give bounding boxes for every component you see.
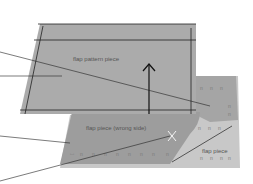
flap-diagram: ꟷnnn nnnn n nnnn nnn nn nnn flap pattern…	[0, 0, 253, 184]
svg-text:n: n	[228, 155, 231, 161]
svg-text:ꟷ: ꟷ	[70, 151, 74, 157]
svg-text:n: n	[210, 85, 213, 91]
leader-line-3	[0, 136, 70, 143]
svg-text:n: n	[80, 151, 83, 157]
svg-text:n: n	[140, 151, 143, 157]
label-flap-piece-wrong-side: flap piece (wrong side)	[86, 125, 146, 131]
flap-piece-back	[196, 76, 238, 122]
svg-text:n: n	[208, 125, 211, 131]
svg-text:n: n	[152, 151, 155, 157]
svg-text:n: n	[220, 155, 223, 161]
svg-text:n: n	[128, 151, 131, 157]
svg-text:n: n	[200, 155, 203, 161]
svg-text:n: n	[166, 151, 169, 157]
flap-pattern-piece	[20, 24, 196, 114]
svg-text:n: n	[228, 111, 231, 117]
svg-text:n: n	[220, 85, 223, 91]
svg-text:n: n	[228, 103, 231, 109]
svg-text:n: n	[200, 85, 203, 91]
svg-text:n: n	[210, 155, 213, 161]
svg-text:n: n	[218, 125, 221, 131]
svg-text:n: n	[104, 151, 107, 157]
svg-text:n: n	[198, 125, 201, 131]
label-flap-piece: flap piece	[202, 148, 228, 154]
diagram-illustration: ꟷnnn nnnn n nnnn nnn nn nnn flap pattern…	[0, 0, 253, 184]
svg-text:n: n	[116, 151, 119, 157]
label-flap-pattern-piece: flap pattern piece	[73, 56, 120, 62]
